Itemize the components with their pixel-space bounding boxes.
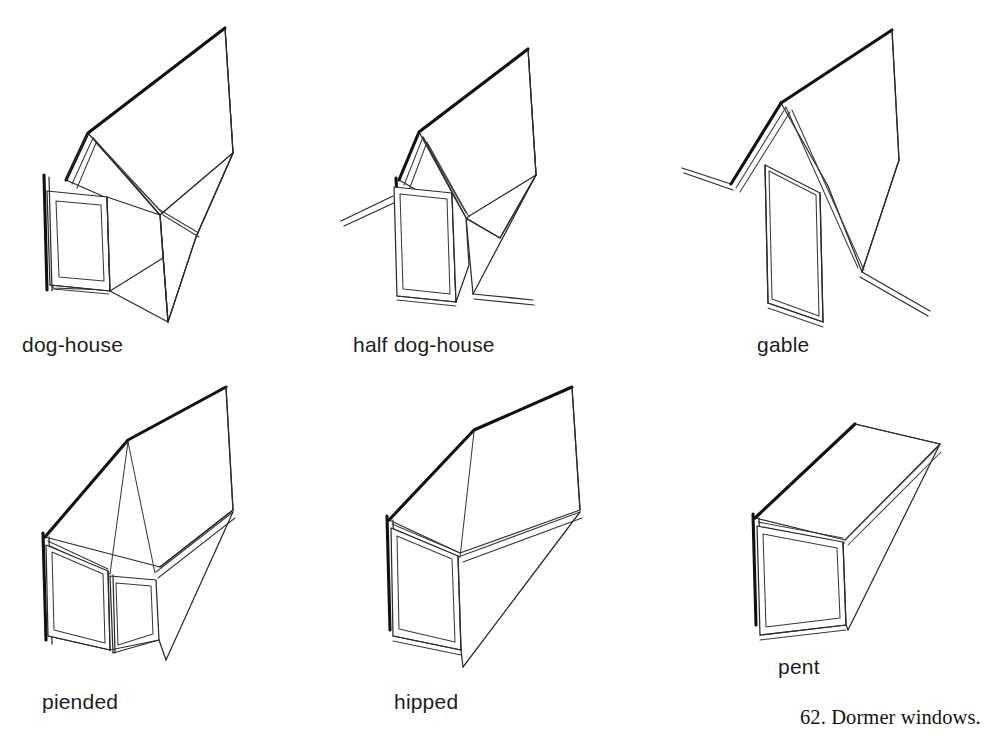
figure-label-dog-house: dog-house — [22, 333, 123, 357]
figure-label-pent: pent — [778, 655, 820, 679]
plate-page: dog-house half dog-house gable piended h… — [0, 0, 1001, 752]
figure-hipped — [387, 387, 582, 667]
dormer-windows-illustration — [0, 0, 1001, 752]
figure-label-gable: gable — [757, 333, 809, 357]
figure-half-dog-house — [341, 49, 536, 306]
figure-piended — [43, 387, 235, 660]
plate-caption: 62. Dormer windows. — [800, 706, 981, 729]
figure-label-hipped: hipped — [394, 690, 458, 714]
figure-gable — [682, 30, 930, 327]
figure-label-half-dog-house: half dog-house — [353, 333, 495, 357]
figure-dog-house — [44, 28, 233, 322]
figure-pent — [753, 424, 941, 640]
figure-label-piended: piended — [42, 690, 118, 714]
